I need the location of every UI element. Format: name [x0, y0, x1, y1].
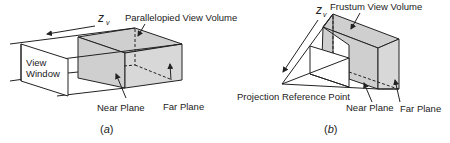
rail-inner	[68, 72, 78, 73]
frustum-title: Frustum View Volume	[330, 1, 422, 12]
prp-label: Projection Reference Point	[237, 91, 350, 102]
axis-label-z: z	[97, 11, 104, 25]
view-window-label-2: Window	[26, 68, 60, 79]
ray-bottom	[282, 84, 378, 89]
parallelepiped-title: Parallelopied View Volume	[125, 12, 237, 23]
near-plane-label-a: Near Plane	[97, 102, 145, 113]
far-plane-label-a: Far Plane	[163, 101, 204, 112]
figure-b-frustum: z v Frustum View Volume Projection Refer…	[237, 1, 441, 135]
view-window-label-1: View	[26, 57, 47, 68]
near-plane-label-b: Near Plane	[346, 102, 394, 113]
view-volume-diagram: z v Parallelopied View Volume View Windo…	[0, 0, 450, 143]
zv-axis-arrow-icon	[47, 26, 95, 34]
caption-b: (b)	[324, 123, 337, 135]
far-plane-label-b: Far Plane	[400, 103, 441, 114]
caption-a: (a)	[100, 123, 113, 135]
axis-label-sub-b: v	[323, 11, 327, 18]
axis-label-z-b: z	[315, 3, 322, 17]
axis-label-sub: v	[106, 19, 110, 26]
figure-a-parallelepiped: z v Parallelopied View Volume View Windo…	[10, 11, 237, 135]
